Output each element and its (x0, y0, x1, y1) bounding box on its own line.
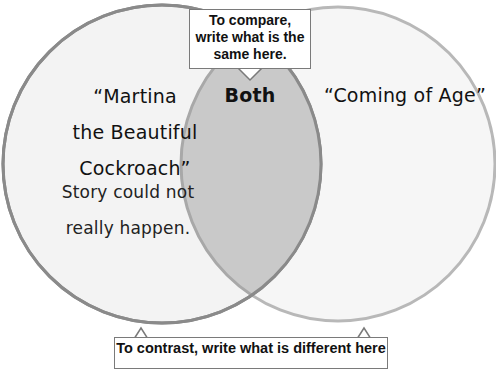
overlap-label: Both (200, 86, 300, 105)
compare-callout-line: To compare, (190, 12, 310, 29)
left-circle-note: Story could not really happen. (28, 174, 228, 246)
compare-callout: To compare, write what is the same here. (189, 9, 311, 69)
left-title-line: the Beautiful (40, 114, 230, 150)
left-note-line: really happen. (28, 210, 228, 246)
compare-callout-line: same here. (190, 46, 310, 63)
compare-callout-line: write what is the (190, 29, 310, 46)
contrast-callout: To contrast, write what is different her… (114, 337, 388, 369)
left-note-line: Story could not (28, 174, 228, 210)
right-circle-title: “Coming of Age” (315, 86, 495, 105)
